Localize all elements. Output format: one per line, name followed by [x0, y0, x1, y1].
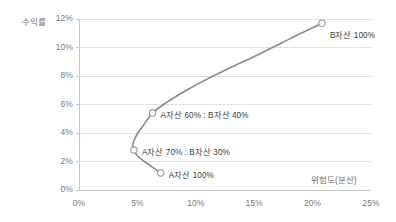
data-point-marker-b-asset-100[interactable] [319, 20, 325, 26]
y-axis-tick-label: 2% [33, 156, 73, 166]
point-label-a70-b30: A자산 70% : B자산 30% [142, 145, 230, 157]
point-label-a60-b40: A자산 60% : B자산 40% [161, 108, 249, 120]
y-axis-title: 수익률 [22, 15, 46, 27]
y-axis-tick-label: 6% [33, 99, 73, 109]
x-axis-tick-label: 20% [293, 198, 333, 208]
x-axis-tick-label: 25% [351, 198, 391, 208]
y-axis-tick-label: 4% [33, 127, 73, 137]
x-axis-tick-label: 15% [234, 198, 274, 208]
x-axis-tick-label: 0% [59, 198, 99, 208]
efficient-frontier-chart: 0%2%4%6%8%10%12% 0%5%10%15%20%25% B자산 10… [0, 0, 396, 222]
point-label-a-asset-100: A자산 100% [169, 168, 214, 180]
data-point-marker-a60-b40[interactable] [149, 110, 155, 116]
x-axis-tick-label: 10% [176, 198, 216, 208]
x-axis-title: 위험도(분산) [311, 173, 357, 185]
data-point-marker-a-asset-100[interactable] [158, 170, 164, 176]
y-axis-tick-label: 10% [33, 42, 73, 52]
x-axis-tick-label: 5% [117, 198, 157, 208]
y-axis-tick-label: 8% [33, 70, 73, 80]
data-point-marker-a70-b30[interactable] [131, 147, 137, 153]
point-label-b-asset-100: B자산 100% [330, 28, 375, 40]
y-axis-tick-label: 0% [33, 184, 73, 194]
